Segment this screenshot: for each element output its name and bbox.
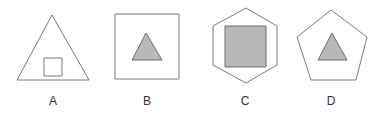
option-c-inner-square [225,26,266,67]
option-d[interactable] [297,10,367,80]
option-b[interactable] [115,14,179,79]
option-d-label: D [321,94,341,108]
option-b-label: B [137,94,157,108]
option-a[interactable] [17,15,89,80]
option-a-label: A [43,94,63,108]
option-c-label: C [235,94,255,108]
option-c[interactable] [213,8,277,83]
option-a-inner-square [44,58,62,76]
